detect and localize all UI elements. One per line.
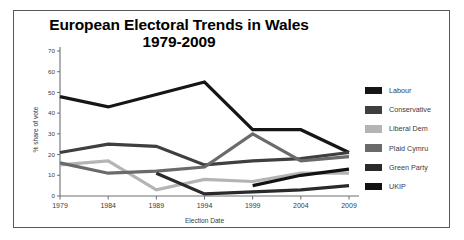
legend-item-conservative[interactable]: Conservative bbox=[365, 100, 451, 119]
x-axis-tick-label: 1989 bbox=[149, 202, 165, 209]
x-axis-tick-label: 1984 bbox=[100, 202, 116, 209]
legend-item-liberal-dem[interactable]: Liberal Dem bbox=[365, 119, 451, 138]
legend-swatch-icon bbox=[365, 125, 382, 133]
y-axis-tick-label: 70 bbox=[48, 47, 55, 54]
x-axis-tick-label: 1994 bbox=[197, 202, 213, 209]
series-line-ukip bbox=[253, 169, 349, 186]
y-axis-tick-label: 10 bbox=[48, 171, 55, 178]
legend-item-green-party[interactable]: Green Party bbox=[365, 158, 451, 177]
x-axis-title: Election Date bbox=[185, 217, 225, 224]
legend-swatch-icon bbox=[365, 183, 382, 191]
y-axis-tick-label: 60 bbox=[48, 68, 55, 75]
legend-item-label: Liberal Dem bbox=[389, 124, 428, 133]
legend-swatch-icon bbox=[365, 164, 382, 172]
y-axis-tick-label: 40 bbox=[48, 109, 55, 116]
series-line-labour bbox=[60, 82, 349, 152]
chart-frame: European Electoral Trends in Wales 1979-… bbox=[13, 10, 450, 228]
x-axis-tick-label: 1979 bbox=[52, 202, 68, 209]
legend-item-label: Green Party bbox=[389, 163, 428, 172]
legend-item-labour[interactable]: Labour bbox=[365, 81, 451, 100]
y-axis-tick-label: 0 bbox=[52, 192, 56, 199]
y-axis-title: % share of vote bbox=[32, 106, 39, 152]
y-axis: 010203040506070 bbox=[48, 47, 60, 199]
legend-item-label: Plaid Cymru bbox=[389, 144, 428, 153]
series-lines bbox=[60, 82, 349, 194]
legend-swatch-icon bbox=[365, 144, 382, 152]
legend-item-label: Conservative bbox=[389, 105, 431, 114]
x-axis-tick-label: 2009 bbox=[341, 202, 357, 209]
legend-item-ukip[interactable]: UKIP bbox=[365, 177, 451, 196]
x-axis-tick-label: 2004 bbox=[293, 202, 309, 209]
y-axis-tick-label: 30 bbox=[48, 130, 55, 137]
legend-item-label: UKIP bbox=[389, 182, 406, 191]
legend-item-label: Labour bbox=[389, 86, 411, 95]
legend-swatch-icon bbox=[365, 106, 382, 114]
series-line-plaid-cymru bbox=[60, 134, 349, 173]
legend-item-plaid-cymru[interactable]: Plaid Cymru bbox=[365, 139, 451, 158]
x-axis-tick-label: 1999 bbox=[245, 202, 261, 209]
legend-swatch-icon bbox=[365, 87, 382, 95]
y-axis-tick-label: 50 bbox=[48, 89, 55, 96]
x-axis: 1979198419891994199920042009 bbox=[52, 196, 359, 209]
chart-legend: LabourConservativeLiberal DemPlaid Cymru… bbox=[365, 81, 451, 196]
y-axis-tick-label: 20 bbox=[48, 151, 55, 158]
